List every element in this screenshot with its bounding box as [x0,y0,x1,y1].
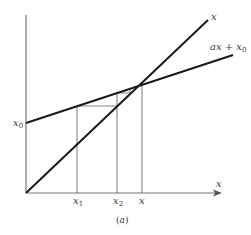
identity-line-label: x [211,12,217,22]
tick-x2-label: x2 [113,196,123,208]
y-intercept-label: x0 [13,118,23,130]
affine-line [26,55,233,123]
tick-fixed-point-label: x [139,196,145,206]
x-axis-label: x [216,179,222,189]
figure-caption: (a) [116,216,128,225]
fixed-point-iteration-diagram [0,0,251,235]
affine-line-label: ax + x0 [210,42,246,54]
tick-x1-label: x1 [73,196,83,208]
